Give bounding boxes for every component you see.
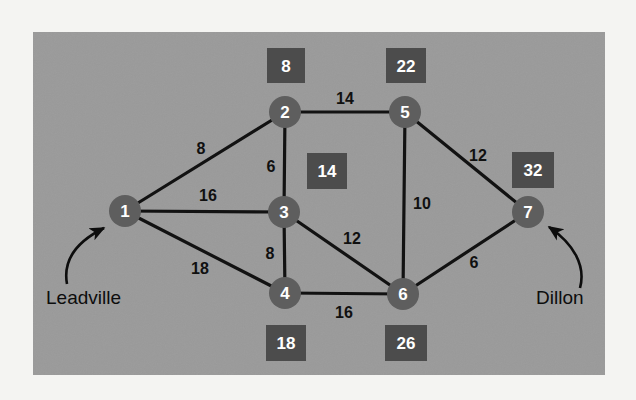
value-box-node-5: 22 <box>386 48 426 83</box>
value-box-node-7: 32 <box>512 152 554 188</box>
edge-weight-5-6: 10 <box>413 195 431 212</box>
value-box-node-4: 18 <box>266 325 306 361</box>
node-1[interactable]: 1 <box>109 195 141 227</box>
value-box-label: 8 <box>281 57 290 76</box>
value-box-node-2: 8 <box>267 48 305 83</box>
node-5[interactable]: 5 <box>389 96 421 128</box>
value-box-label: 22 <box>397 57 416 76</box>
leadville-label: Leadville <box>46 287 121 308</box>
node-7[interactable]: 7 <box>512 196 544 228</box>
value-box-node-3: 14 <box>307 153 347 189</box>
node-label: 2 <box>280 103 289 122</box>
value-box-node-6: 26 <box>385 325 427 361</box>
edge-weight-3-6: 12 <box>343 230 361 247</box>
edge-weight-1-4: 18 <box>191 260 209 277</box>
edge-1-3 <box>125 211 284 212</box>
edge-weight-2-3: 6 <box>267 158 276 175</box>
edge-weight-3-4: 8 <box>266 245 275 262</box>
value-box-label: 26 <box>397 334 416 353</box>
edge-4-6 <box>285 293 403 294</box>
edge-weight-5-7: 12 <box>469 147 487 164</box>
node-label: 4 <box>280 284 290 303</box>
value-box-label: 32 <box>524 161 543 180</box>
value-box-label: 14 <box>318 162 337 181</box>
edge-weight-6-7: 6 <box>470 254 479 271</box>
edge-weight-1-2: 8 <box>197 140 206 157</box>
edge-5-6 <box>403 112 405 294</box>
value-box-label: 18 <box>277 334 296 353</box>
node-3[interactable]: 3 <box>268 196 300 228</box>
node-6[interactable]: 6 <box>387 278 419 310</box>
graph-canvas: 8 22 14 32 18 26 <box>0 0 636 400</box>
node-4[interactable]: 4 <box>269 277 301 309</box>
edge-weight-2-5: 14 <box>336 90 354 107</box>
node-label: 5 <box>400 103 409 122</box>
dillon-label: Dillon <box>536 287 584 308</box>
node-label: 1 <box>120 202 129 221</box>
edge-weight-4-6: 16 <box>335 304 353 321</box>
network-diagram-figure: 8 22 14 32 18 26 <box>0 0 636 400</box>
node-label: 3 <box>279 203 288 222</box>
edge-weight-1-3: 16 <box>199 187 217 204</box>
node-label: 7 <box>523 203 532 222</box>
node-label: 6 <box>398 285 407 304</box>
node-2[interactable]: 2 <box>269 96 301 128</box>
